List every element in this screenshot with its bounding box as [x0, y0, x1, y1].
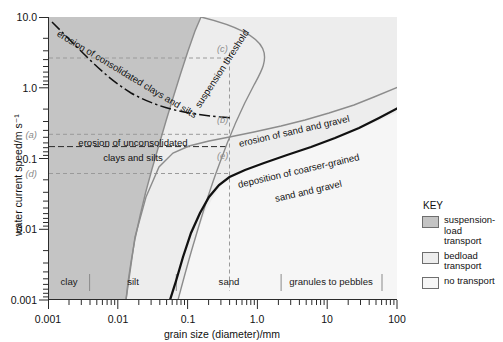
x-tick-100: 100 — [388, 313, 406, 325]
legend-label-no-transport-line1: no transport — [444, 276, 495, 287]
legend: KEY suspension- load transport bedload t… — [422, 200, 500, 293]
legend-item-no-transport: no transport — [422, 276, 500, 289]
legend-label-suspension: suspension- load transport — [444, 215, 495, 247]
legend-label-suspension-line3: transport — [444, 236, 495, 247]
x-tick-10: 10 — [321, 313, 333, 325]
legend-label-no-transport: no transport — [444, 276, 495, 287]
x-tick-0.1: 0.1 — [181, 313, 196, 325]
legend-swatch-suspension — [422, 216, 439, 228]
x-axis-title: grain size (diameter)/mm — [164, 328, 280, 340]
legend-swatch-no-transport — [422, 277, 439, 289]
legend-item-bedload: bedload transport — [422, 251, 500, 272]
legend-swatch-bedload — [422, 252, 439, 264]
x-tick-0.01: 0.01 — [108, 313, 128, 325]
x-tick-0.001: 0.001 — [35, 313, 61, 325]
legend-label-bedload: bedload transport — [444, 251, 482, 272]
legend-label-suspension-line1: suspension- — [444, 215, 495, 226]
chart-root: erosion of consolidated clays and silts … — [0, 0, 503, 342]
legend-label-bedload-line2: transport — [444, 261, 482, 272]
legend-title: KEY — [423, 200, 500, 211]
legend-item-suspension: suspension- load transport — [422, 215, 500, 247]
x-tick-1.0: 1.0 — [250, 313, 265, 325]
